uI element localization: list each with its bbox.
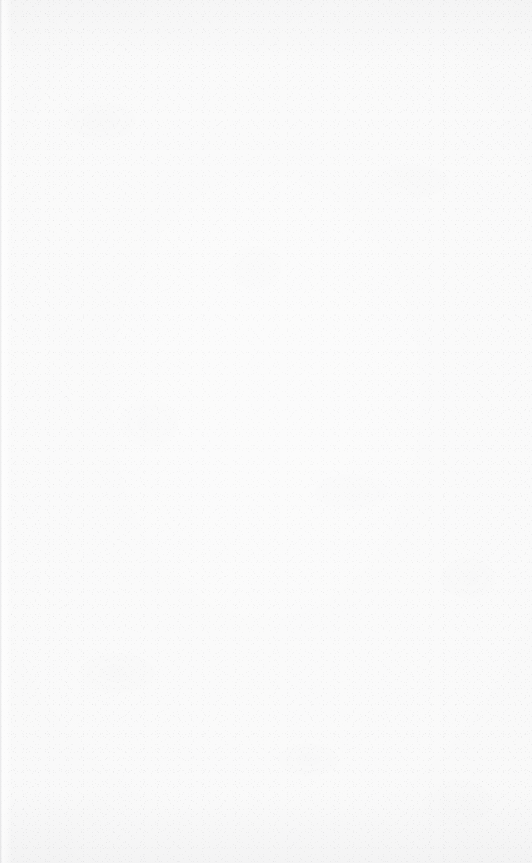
page-content-area: [0, 0, 532, 863]
scanned-page: [0, 0, 532, 863]
